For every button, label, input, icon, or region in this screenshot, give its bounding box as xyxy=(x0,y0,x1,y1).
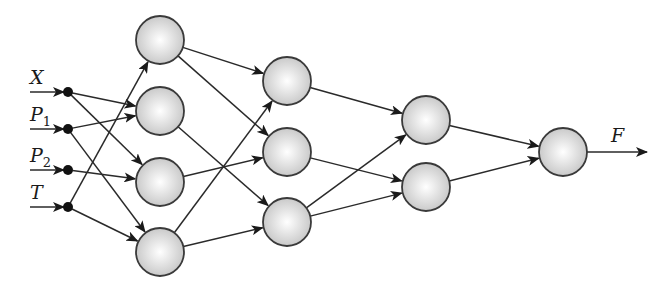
neuron-h1c xyxy=(136,158,184,206)
labels: XP1P2TF xyxy=(28,66,625,203)
input-node-t xyxy=(63,202,73,212)
neuron-out xyxy=(539,128,587,176)
neural-network-diagram: XP1P2TF xyxy=(0,0,667,294)
edge-h3b-out xyxy=(449,158,539,181)
edge-h1a-h2a xyxy=(183,47,263,73)
neurons xyxy=(63,16,587,276)
edge-h2b-h3b xyxy=(310,158,401,181)
edge-x-h1b xyxy=(72,93,135,106)
edge-h2c-h3a xyxy=(306,135,405,208)
neuron-h2c xyxy=(263,198,311,246)
input-node-p1 xyxy=(63,124,73,134)
input-label-t: T xyxy=(30,181,44,203)
neuron-h2a xyxy=(263,57,311,105)
neuron-h1d xyxy=(136,228,184,276)
edge-t-h1d xyxy=(72,209,138,241)
edge-h1d-h2c xyxy=(183,228,262,247)
output-label-f: F xyxy=(610,124,625,146)
input-label-x: X xyxy=(28,66,45,88)
input-label-p1: P1 xyxy=(29,103,51,129)
neuron-h1b xyxy=(136,87,184,135)
neuron-h3b xyxy=(402,163,450,211)
edge-h2a-h3a xyxy=(310,87,402,113)
neuron-h3a xyxy=(402,96,450,144)
edge-h2c-h3b xyxy=(310,193,401,216)
edge-h1d-h2a xyxy=(174,101,272,233)
neuron-h1a xyxy=(136,16,184,64)
neuron-h2b xyxy=(263,128,311,176)
input-label-p2: P2 xyxy=(29,144,51,170)
edge-h3a-out xyxy=(449,125,538,146)
input-node-x xyxy=(63,87,73,97)
input-node-p2 xyxy=(63,165,73,175)
